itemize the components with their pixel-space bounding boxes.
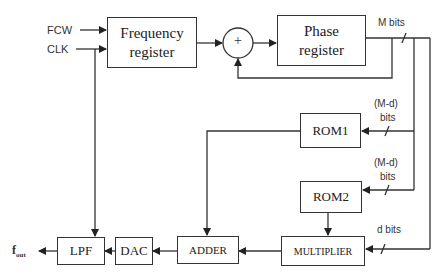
phase-register-line2: register (299, 41, 344, 60)
frequency-register-line2: register (130, 43, 175, 62)
rom1-bits-top: (M-d) (374, 97, 398, 110)
fout-sub: out (16, 251, 26, 259)
phase-register-line1: Phase (304, 22, 339, 41)
rom1-block: ROM1 (300, 113, 361, 148)
adder-circle-plus: + (228, 34, 248, 47)
rom2-bits-bottom: bits (380, 170, 396, 183)
rom2-block: ROM2 (300, 181, 362, 213)
fout-label: fout (12, 244, 26, 262)
rom2-bits-top: (M-d) (374, 156, 398, 169)
dac-block: DAC (115, 237, 153, 265)
frequency-register-block: Frequency register (107, 17, 197, 68)
fcw-label: FCW (47, 24, 72, 37)
frequency-register-line1: Frequency (120, 24, 183, 43)
multiplier-block: MULTIPLIER (281, 236, 365, 266)
adder-block: ADDER (177, 236, 239, 264)
clk-label: CLK (47, 43, 68, 56)
lpf-block: LPF (57, 237, 105, 265)
rom1-bits-bottom: bits (380, 111, 396, 124)
d-bits-label: d bits (377, 223, 401, 236)
m-bits-label: M bits (378, 16, 405, 29)
phase-register-block: Phase register (277, 15, 366, 66)
